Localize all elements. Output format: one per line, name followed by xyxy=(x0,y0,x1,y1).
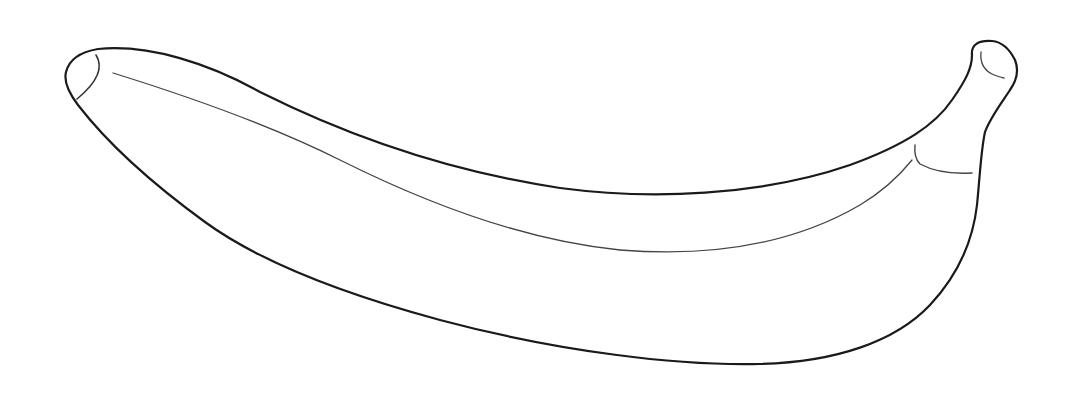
banana-drawing xyxy=(0,0,1076,393)
illustration-canvas: banana line drawing xyxy=(0,0,1076,393)
banana-outline xyxy=(66,41,1018,364)
